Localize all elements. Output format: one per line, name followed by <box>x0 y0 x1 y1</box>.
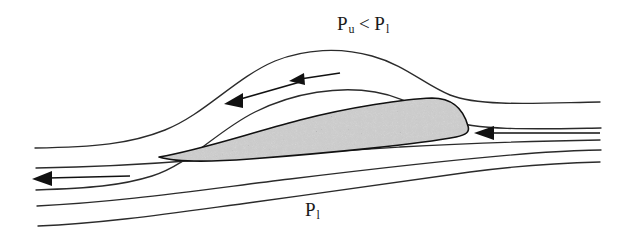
lower-pressure-subscript: l <box>316 208 320 222</box>
upper-pressure-subscript2: l <box>385 22 389 36</box>
upper-pressure-symbol2: P <box>374 13 385 34</box>
lower-pressure-symbol: P <box>305 199 316 220</box>
lower-pressure-label: Pl <box>305 199 320 221</box>
airfoil-cross-section <box>150 90 480 170</box>
upper-pressure-symbol: P <box>337 13 348 34</box>
airfoil-texture <box>150 90 480 170</box>
arrow-upper-inner <box>224 82 300 108</box>
airfoil-flow-figure: Pu<Pl Pl <box>0 0 631 235</box>
streamline-lower <box>37 150 601 206</box>
upper-pressure-label: Pu<Pl <box>337 13 390 35</box>
pressure-relation-operator: < <box>355 13 374 34</box>
upper-pressure-subscript: u <box>348 22 355 36</box>
